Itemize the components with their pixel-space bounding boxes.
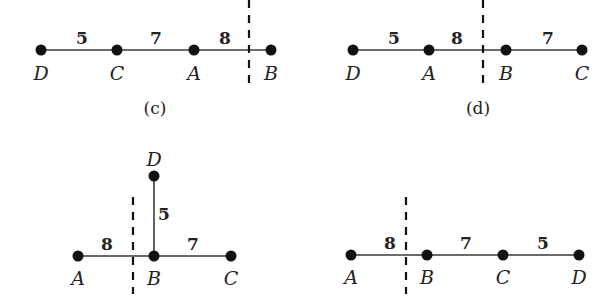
node-D (36, 45, 47, 56)
panel-e: 875ABCD (69, 148, 239, 294)
edge-weight: 8 (451, 28, 463, 48)
node-B (422, 250, 433, 261)
edge-weight: 7 (187, 234, 199, 254)
node-label: C (496, 266, 511, 288)
node-A (189, 45, 200, 56)
node-A (424, 45, 435, 56)
panel-d: 587DABC(d) (344, 0, 589, 118)
node-C (577, 45, 588, 56)
node-A (73, 251, 84, 262)
edge-weight: 7 (460, 233, 472, 253)
edge-weight: 5 (537, 233, 549, 253)
node-C (226, 251, 237, 262)
panel-f: 875ABCD (342, 197, 586, 294)
edge-weight: 5 (388, 28, 400, 48)
panel-caption: (d) (466, 98, 490, 118)
node-D (574, 250, 585, 261)
node-label: D (32, 62, 48, 84)
node-D (348, 45, 359, 56)
edge-weight: 5 (158, 204, 170, 224)
graph-cut-diagram: 578DCAB(c)587DABC(d)875ABCD875ABCD (0, 0, 614, 304)
node-label: A (185, 62, 201, 84)
edge-weight: 7 (542, 28, 554, 48)
node-B (266, 45, 277, 56)
node-B (501, 45, 512, 56)
node-D (149, 171, 160, 182)
node-C (112, 45, 123, 56)
edge-weight: 5 (76, 28, 88, 48)
edge-weight: 8 (101, 234, 113, 254)
node-label: A (69, 267, 85, 289)
node-label: B (263, 62, 278, 84)
node-label: B (419, 266, 434, 288)
edge-weight: 8 (219, 28, 231, 48)
edge-weight: 7 (150, 28, 162, 48)
node-label: A (420, 62, 436, 84)
node-label: C (575, 62, 590, 84)
panel-caption: (c) (144, 98, 167, 118)
node-label: B (498, 62, 513, 84)
panel-c: 578DCAB(c) (32, 0, 278, 118)
node-label: D (145, 148, 161, 170)
node-A (346, 250, 357, 261)
edge-weight: 8 (384, 233, 396, 253)
node-label: C (110, 62, 125, 84)
node-label: B (146, 267, 161, 289)
node-C (498, 250, 509, 261)
node-label: A (342, 266, 358, 288)
node-label: D (570, 266, 586, 288)
node-label: D (344, 62, 360, 84)
node-B (149, 251, 160, 262)
node-label: C (224, 267, 239, 289)
